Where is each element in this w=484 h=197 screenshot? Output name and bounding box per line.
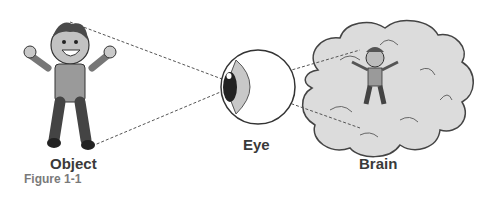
brain-label: Brain: [359, 155, 397, 172]
object-illustration: [24, 23, 116, 150]
eye-label: Eye: [243, 136, 270, 153]
eye-illustration: [221, 50, 295, 124]
brain-illustration: [303, 21, 474, 157]
object-label: Object: [50, 155, 97, 172]
figure-caption: Figure 1-1: [24, 172, 81, 186]
